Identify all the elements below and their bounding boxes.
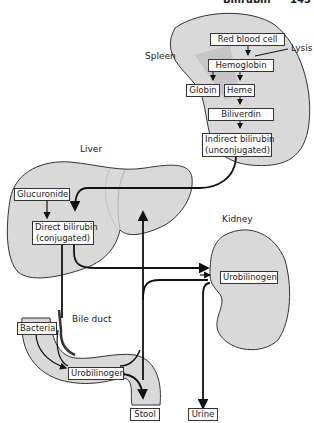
indirect-bilirubin-line1: Indirect bilirubin	[205, 134, 269, 145]
indirect-bilirubin-line2: (unconjugated)	[205, 145, 269, 156]
node-red-blood-cell: Red blood cell	[210, 33, 285, 46]
direct-bilirubin-line1: Direct bilirubin	[35, 222, 91, 233]
node-hemoglobin: Hemoglobin	[208, 59, 274, 72]
direct-bilirubin-line2: (conjugated)	[35, 233, 91, 244]
node-globin: Globin	[186, 84, 220, 97]
page-header-title: Bilirubin	[223, 0, 271, 5]
node-glucuronide: Glucuronide	[14, 188, 70, 201]
node-intestine-urobilinogen: Urobilinogen	[68, 367, 124, 380]
bile-duct-label: Bile duct	[72, 315, 111, 324]
liver-shape	[7, 162, 192, 278]
node-kidney-urobilinogen: Urobilinogen	[220, 271, 278, 284]
node-indirect-bilirubin: Indirect bilirubin (unconjugated)	[202, 133, 272, 157]
lysis-label: Lysis	[291, 44, 312, 53]
node-urine: Urine	[188, 408, 218, 421]
node-bacteria: Bacteria	[17, 322, 57, 335]
node-biliverdin: Biliverdin	[208, 108, 274, 121]
kidney-shape	[210, 230, 290, 350]
node-direct-bilirubin: Direct bilirubin (conjugated)	[32, 221, 94, 245]
page-number: 143	[290, 0, 311, 5]
node-heme: Heme	[224, 84, 255, 97]
spleen-label: Spleen	[145, 52, 176, 61]
kidney-label: Kidney	[222, 215, 253, 224]
liver-label: Liver	[80, 145, 102, 154]
node-stool: Stool	[130, 408, 160, 421]
